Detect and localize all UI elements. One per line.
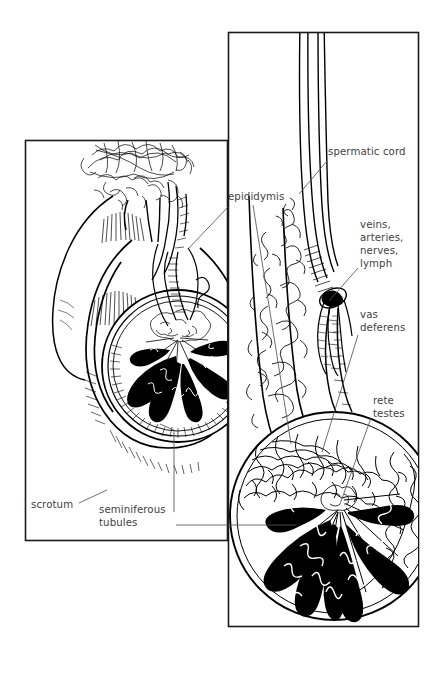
testis-cutaway-right xyxy=(230,412,438,622)
anatomy-figure: spermatic cord epididymis veins, arterie… xyxy=(0,0,441,686)
label-spermatic-cord: spermatic cord xyxy=(328,146,406,157)
label-epididymis: epididymis xyxy=(228,191,284,202)
label-scrotum: scrotum xyxy=(31,499,73,510)
anatomy-illustration-svg: spermatic cord epididymis veins, arterie… xyxy=(0,0,441,686)
